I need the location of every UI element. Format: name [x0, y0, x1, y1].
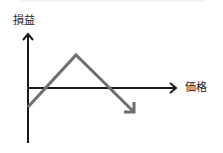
x-axis-label: 価格 — [185, 82, 207, 94]
y-axis-label: 損益 — [13, 15, 35, 27]
payoff-line — [28, 55, 133, 111]
